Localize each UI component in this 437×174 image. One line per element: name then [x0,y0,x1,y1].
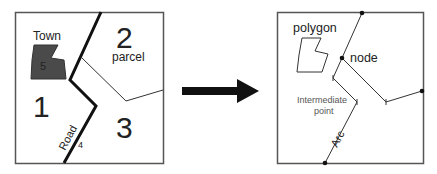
parcel-1-label: 1 [33,90,50,123]
intermediate-label: Intermediate [297,95,347,105]
node-point [323,161,328,166]
arrow-head [237,79,259,103]
conversion-arrow [182,79,259,103]
town-id-label: 5 [40,60,46,72]
right-panel: polygon node Intermediate point Arc [278,11,425,166]
arrow-shaft [182,87,239,95]
town-label: Town [33,29,61,43]
right-frame [278,13,424,164]
road-id-label: 4 [78,140,83,150]
parcel-word-label: parcel [112,50,145,64]
polygon-label: polygon [293,21,337,35]
left-panel: Town 5 1 2 parcel 3 Road 4 [16,12,164,164]
node-label: node [350,51,378,65]
parcel-3-label: 3 [116,111,133,144]
node-point [420,89,425,94]
vector-model-diagram: Town 5 1 2 parcel 3 Road 4 polygon [0,0,437,174]
node-point [360,11,365,16]
intermediate-point-label: point [314,106,334,116]
node-point [340,56,345,61]
